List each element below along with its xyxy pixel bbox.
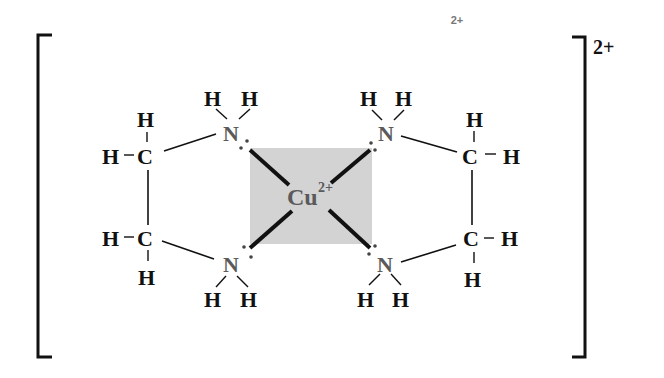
lone-pair-dot <box>239 146 243 150</box>
hydrogen-atom: H <box>241 86 258 111</box>
copper-atom: Cu <box>287 184 318 210</box>
bond-n-h <box>394 110 404 120</box>
lone-pair-dot <box>369 141 373 145</box>
hydrogen-atom: H <box>503 144 520 169</box>
hydrogen-atom: H <box>102 226 119 251</box>
bond-n-h <box>369 274 380 285</box>
hydrogen-atom: H <box>204 86 221 111</box>
hydrogen-atom: H <box>392 287 409 312</box>
complex-diagram: 2+ 2+ Cu 2+ N H H C H H N H H C H H N H … <box>0 0 664 378</box>
carbon-atom-bl: C <box>137 226 153 251</box>
bond-n-h <box>391 274 401 285</box>
right-bracket <box>572 37 585 357</box>
bond-n-h <box>216 109 227 119</box>
lone-pair-dot <box>373 244 377 248</box>
bond-n-h <box>372 110 382 120</box>
hydrogen-atom: H <box>102 144 119 169</box>
hydrogen-atom: H <box>464 267 481 292</box>
carbon-atom-br: C <box>463 226 479 251</box>
hydrogen-atom: H <box>204 287 221 312</box>
copper-charge: 2+ <box>318 180 333 195</box>
lone-pair-dot <box>242 245 246 249</box>
nitrogen-atom-bl: N <box>223 252 239 277</box>
hydrogen-atom: H <box>395 86 412 111</box>
bond-c-n <box>162 241 214 259</box>
left-bracket <box>38 35 52 357</box>
bond-n-h <box>216 276 226 287</box>
bond-n-h <box>237 276 248 287</box>
stray-charge-label: 2+ <box>451 14 464 26</box>
hydrogen-atom: H <box>240 287 257 312</box>
nitrogen-atom-br: N <box>377 252 393 277</box>
hydrogen-atom: H <box>360 86 377 111</box>
lone-pair-dot <box>373 148 377 152</box>
carbon-atom-tl: C <box>137 144 153 169</box>
hydrogen-atom: H <box>501 226 518 251</box>
overall-charge: 2+ <box>593 36 614 58</box>
hydrogen-atom: H <box>466 107 483 132</box>
lone-pair-dot <box>249 255 253 259</box>
hydrogen-atom: H <box>137 107 154 132</box>
lone-pair-dot <box>245 139 249 143</box>
lone-pair-dot <box>367 252 371 256</box>
bond-c-n <box>164 134 216 151</box>
bond-n-c <box>401 245 456 262</box>
bond-n-c <box>401 136 457 152</box>
carbon-atom-tr: C <box>462 144 478 169</box>
hydrogen-atom: H <box>138 265 155 290</box>
nitrogen-atom-tl: N <box>223 121 239 146</box>
hydrogen-atom: H <box>357 287 374 312</box>
nitrogen-atom-tr: N <box>378 121 394 146</box>
